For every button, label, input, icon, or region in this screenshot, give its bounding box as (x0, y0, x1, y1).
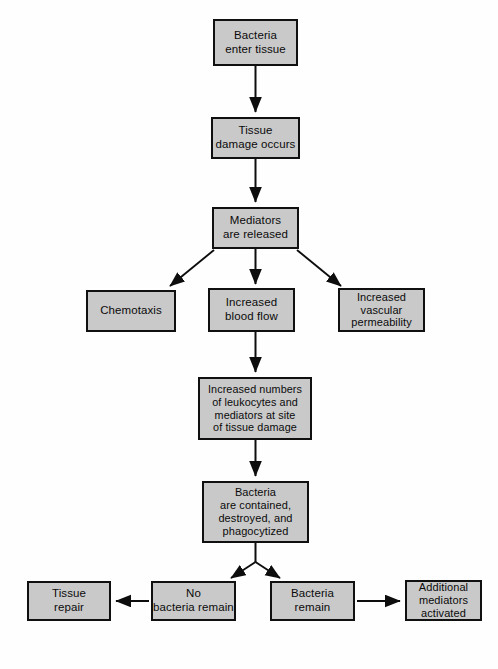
node-chemotaxis[interactable]: Chemotaxis (86, 290, 176, 332)
node-label: Tissue damage occurs (216, 124, 296, 151)
node-bacteria-remain[interactable]: Bacteria remain (270, 581, 355, 621)
flow-connectors (0, 0, 498, 669)
flowchart-canvas: Bacteria enter tissue Tissue damage occu… (0, 0, 498, 669)
edge-mediators-to-vascular (297, 250, 341, 286)
node-increased-blood-flow[interactable]: Increased blood flow (208, 288, 295, 332)
node-label: Mediators are released (223, 214, 288, 241)
node-label: Increased numbers of leukocytes and medi… (208, 383, 302, 434)
node-no-bacteria-remain[interactable]: No bacteria remain (151, 581, 236, 621)
node-tissue-damage-occurs[interactable]: Tissue damage occurs (211, 117, 300, 159)
node-mediators-are-released[interactable]: Mediators are released (212, 207, 299, 249)
node-bacteria-contained-destroyed-phagocytized[interactable]: Bacteria are contained, destroyed, and p… (202, 481, 309, 543)
node-bacteria-enter-tissue[interactable]: Bacteria enter tissue (213, 19, 298, 66)
edge-contained-to-bacteria-remain (256, 562, 281, 578)
node-label: Bacteria enter tissue (225, 29, 286, 56)
node-increased-leukocytes-mediators[interactable]: Increased numbers of leukocytes and medi… (198, 377, 312, 440)
node-label: Chemotaxis (100, 304, 162, 318)
node-additional-mediators-activated[interactable]: Additional mediators activated (405, 580, 482, 621)
node-label: Increased vascular permeability (351, 291, 412, 330)
node-label: No bacteria remain (153, 587, 234, 614)
edge-mediators-to-chemotaxis (170, 250, 214, 286)
node-label: Additional mediators activated (419, 581, 468, 620)
node-label: Increased blood flow (225, 296, 278, 323)
node-label: Bacteria remain (272, 587, 353, 614)
node-label: Tissue repair (52, 587, 86, 614)
node-label: Bacteria are contained, destroyed, and p… (218, 486, 292, 538)
edge-contained-to-no-bacteria (231, 562, 256, 578)
node-tissue-repair[interactable]: Tissue repair (27, 581, 111, 621)
node-increased-vascular-permeability[interactable]: Increased vascular permeability (338, 288, 425, 332)
